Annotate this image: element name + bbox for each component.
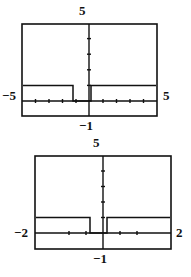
plot-two-bottom-label: −1 [93, 252, 107, 265]
plot-two-right-label: 2 [176, 226, 183, 239]
plot-two [34, 155, 172, 250]
plot-one-bottom-label: −1 [79, 119, 93, 132]
plot-one-canvas [21, 23, 158, 117]
figure-container: 5 −5 5 −1 [0, 0, 191, 277]
plot-one-top-label: 5 [79, 4, 86, 17]
plot-one-left-label: −5 [2, 89, 16, 102]
plot-two-top-label: 5 [93, 136, 100, 149]
plot-one [21, 23, 158, 117]
plot-two-left-label: −2 [14, 226, 28, 239]
plot-one-right-label: 5 [163, 89, 170, 102]
plot-two-canvas [34, 155, 172, 250]
